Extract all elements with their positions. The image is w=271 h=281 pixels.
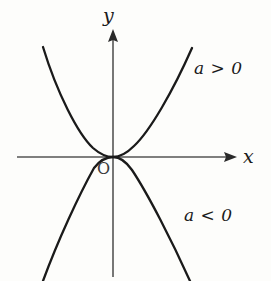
parabola-a-positive: [43, 47, 192, 157]
annotation-a-negative: a < 0: [184, 207, 233, 224]
origin-label: O: [97, 161, 110, 177]
plot-canvas: [0, 0, 271, 281]
parabola-figure: y x O a > 0 a < 0: [0, 0, 271, 281]
y-axis-label: y: [103, 6, 114, 25]
annotation-a-positive: a > 0: [194, 60, 243, 77]
parabola-a-negative: [43, 157, 190, 281]
x-axis-label: x: [243, 147, 254, 166]
